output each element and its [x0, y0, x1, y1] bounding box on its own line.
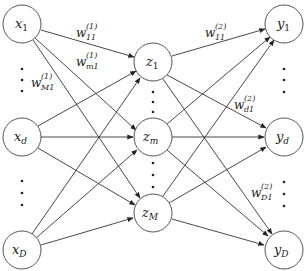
svg-text:M1: M1 [40, 83, 54, 92]
svg-text:(1): (1) [86, 22, 97, 31]
input-node-xd: xd [3, 118, 41, 156]
weight-label-wM1-1: w (1) M1 [31, 72, 54, 92]
weight-label-w11-1: w (1) 11 [76, 22, 97, 42]
weight-label-wd1-2: w (2) d1 [234, 94, 255, 114]
edges-layer-2 [163, 29, 274, 245]
input-node-x1: x1 [3, 5, 41, 43]
svg-text:m1: m1 [86, 62, 99, 71]
hidden-node-zM: zM [134, 194, 172, 232]
hidden-node-z1: z1 [134, 43, 172, 81]
weight-label-w11-2: w (2) 11 [205, 22, 226, 42]
output-node-yD: yD [265, 231, 303, 269]
output-node-yd: yd [265, 118, 303, 156]
svg-text:D1: D1 [260, 193, 273, 202]
hidden-node-zm: zm [134, 118, 172, 156]
weight-label-wD1-2: w (2) D1 [251, 182, 273, 202]
svg-text:(1): (1) [41, 72, 52, 81]
svg-text:d1: d1 [244, 105, 254, 114]
svg-text:11: 11 [86, 33, 96, 42]
svg-text:(2): (2) [261, 182, 272, 191]
output-node-y1: y1 [265, 5, 303, 43]
neural-network-diagram: x1 xd xD z1 zm zM y1 yd yD w (1) 11 w [0, 0, 305, 271]
input-node-xD: xD [3, 231, 41, 269]
svg-text:(1): (1) [86, 51, 97, 60]
weight-label-wm1-1: w (1) m1 [76, 51, 99, 71]
svg-text:(2): (2) [244, 94, 255, 103]
svg-text:11: 11 [215, 33, 225, 42]
svg-text:(2): (2) [215, 22, 226, 31]
